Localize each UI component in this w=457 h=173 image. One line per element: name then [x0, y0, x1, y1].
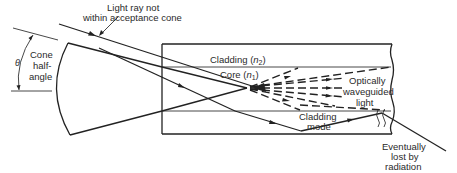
cladding-ray-arrow-icon — [178, 83, 185, 88]
light-ray-label-line2: within acceptance cone — [82, 12, 182, 23]
arc-arrow-top-icon — [29, 35, 34, 41]
cladding-ray-lower — [235, 111, 301, 131]
radiation-label-line3: radiation — [385, 161, 421, 172]
theta-symbol: θ — [15, 58, 20, 68]
leader-arrowhead-icon — [99, 30, 104, 36]
focal-point-cluster — [252, 83, 266, 92]
ray-arrow-icon — [88, 31, 96, 36]
acceptance-cone — [56, 43, 162, 135]
dashed-arrow-icon — [326, 94, 334, 98]
cone-label-line1: Cone — [30, 49, 53, 60]
waveguided-label-line3: light — [356, 97, 374, 108]
cladding-n2-label: Cladding (n2) — [210, 54, 266, 66]
cone-edge-reference-line — [13, 28, 58, 40]
dashed-arrow-icon — [326, 86, 333, 89]
cone-label-line3: angle — [29, 71, 52, 82]
core-n1-label: Core (n1) — [220, 69, 259, 81]
cone-half-angle-indicator: θ Cone half- angle — [11, 28, 58, 91]
dashed-ray-6 — [250, 89, 335, 106]
waveguided-label-line1: Optically — [349, 75, 386, 86]
length-break-symbol — [377, 110, 386, 127]
waveguided-label-line2: waveguided — [342, 86, 394, 97]
dashed-arrow-icon — [284, 76, 291, 80]
cladding-ray-arrow2-icon — [269, 120, 277, 124]
dashed-arrow-icon — [282, 98, 290, 102]
cladding-mode-label-line2: mode — [307, 121, 331, 132]
dashed-arrow-icon — [326, 78, 333, 82]
cone-label-line2: half- — [33, 60, 51, 71]
cladding-ray-arrow3-icon — [347, 119, 354, 123]
lower-refracted-ray — [162, 88, 247, 111]
fiber-optics-diagram: θ Cone half- angle — [0, 0, 457, 173]
